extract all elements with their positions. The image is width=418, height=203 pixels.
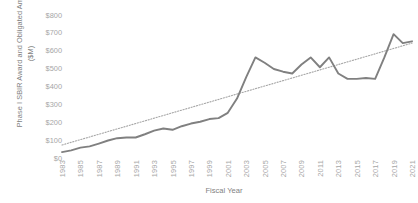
chart-container: Phase I SBIR Award and Obligated Amounts…: [0, 0, 418, 203]
x-axis-title: Fiscal Year: [0, 186, 418, 195]
data-series-line: [62, 34, 412, 152]
plot-area: [0, 0, 418, 203]
trendline-series: [62, 43, 412, 145]
